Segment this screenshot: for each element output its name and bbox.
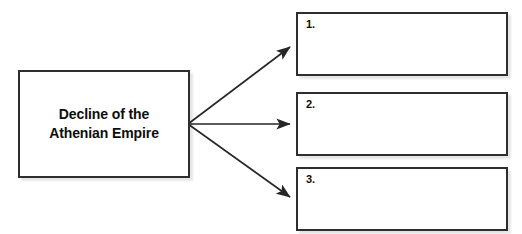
diagram-canvas: Decline of the Athenian Empire 1. 2. 3.: [0, 0, 522, 234]
effect-box-2-number: 2.: [306, 98, 315, 110]
effect-box-1[interactable]: 1.: [296, 12, 508, 76]
arrow-to-effect-1: [188, 47, 290, 124]
effect-box-1-number: 1.: [306, 18, 315, 30]
effect-box-2[interactable]: 2.: [296, 92, 508, 156]
arrow-to-effect-3: [188, 124, 290, 197]
effect-box-3[interactable]: 3.: [296, 167, 508, 231]
source-topic-box[interactable]: Decline of the Athenian Empire: [18, 70, 190, 178]
source-topic-label: Decline of the Athenian Empire: [49, 105, 159, 142]
effect-box-3-number: 3.: [306, 173, 315, 185]
